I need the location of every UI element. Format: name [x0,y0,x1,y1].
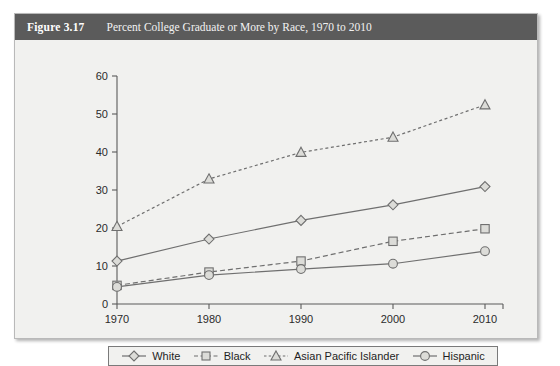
figure-box: Figure 3.17 Percent College Graduate or … [14,13,538,339]
line-chart: 010203040506019701980199020002010 [15,40,537,338]
legend-label: Asian Pacific Islander [294,350,399,362]
square-marker-icon [193,348,219,364]
y-tick-label: 0 [102,298,108,310]
figure-caption: Percent College Graduate or More by Race… [107,21,372,33]
diamond-marker-icon [121,348,147,364]
data-point-white [296,215,306,225]
x-tick-label: 1980 [197,313,221,325]
figure-number: Figure 3.17 [27,21,85,33]
series-line-asian-pacific-islander [117,105,485,227]
data-point-white [204,234,214,244]
x-tick-label: 1990 [289,313,313,325]
legend-item-black[interactable]: Black [193,348,251,364]
triangle-marker-icon [263,348,289,364]
data-point-black [297,257,305,265]
data-point-hispanic [481,247,490,256]
data-point-hispanic [297,265,306,274]
data-point-black [481,225,489,233]
legend-label: Black [224,350,251,362]
data-point-white [480,182,490,192]
data-point-white [388,200,398,210]
y-tick-label: 50 [96,108,108,120]
y-tick-label: 10 [96,260,108,272]
data-point-asian-pacific-islander [112,221,122,230]
legend-label: Hispanic [443,350,485,362]
legend-item-hispanic[interactable]: Hispanic [412,348,485,364]
y-tick-label: 30 [96,184,108,196]
legend-item-white[interactable]: White [121,348,180,364]
y-tick-label: 20 [96,222,108,234]
x-tick-label: 1970 [105,313,129,325]
legend-label: White [152,350,180,362]
chart-legend: WhiteBlackAsian Pacific IslanderHispanic [108,346,498,366]
x-tick-label: 2010 [473,313,497,325]
legend-item-asian-pacific-islander[interactable]: Asian Pacific Islander [263,348,399,364]
data-point-black [389,237,397,245]
data-point-white [112,256,122,266]
y-tick-label: 60 [96,70,108,82]
figure-header: Figure 3.17 Percent College Graduate or … [15,14,537,40]
data-point-hispanic [113,283,122,292]
figure-body: 010203040506019701980199020002010 WhiteB… [15,40,537,338]
x-tick-label: 2000 [381,313,405,325]
data-point-hispanic [205,271,214,280]
y-tick-label: 40 [96,146,108,158]
data-point-asian-pacific-islander [388,132,398,141]
data-point-hispanic [389,259,398,268]
circle-marker-icon [412,348,438,364]
data-point-asian-pacific-islander [480,100,490,109]
